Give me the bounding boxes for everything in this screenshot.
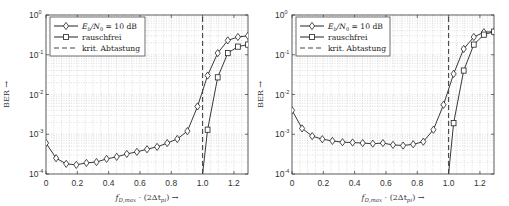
x-tick-label: 1.0 <box>443 178 455 188</box>
x-tick-label: 1.0 <box>197 178 209 188</box>
square-marker <box>246 42 251 47</box>
x-tick-label: 1.2 <box>228 178 240 188</box>
square-marker <box>482 32 487 37</box>
x-tick-label: 0.2 <box>71 178 83 188</box>
y-axis-label: BER → <box>2 81 11 108</box>
square-marker <box>492 29 497 34</box>
legend-label-krit-abtastung: krit. Abtastung <box>328 44 386 53</box>
x-tick-label: 0.8 <box>165 178 177 188</box>
y-tick-label: 10-4 <box>275 168 289 179</box>
x-tick-label: 0.6 <box>380 178 392 188</box>
y-tick-label: 100 <box>275 9 288 20</box>
x-tick-label: 0 <box>44 178 49 188</box>
y-axis-label: BER → <box>256 81 265 108</box>
y-tick-label: 10-1 <box>275 49 289 60</box>
square-marker <box>451 121 456 126</box>
right-chart-svg: 00.20.40.60.81.01.210010-110-210-310-4BE… <box>254 0 509 206</box>
x-axis-label: fD,max · (2Δtpi) → <box>360 193 424 204</box>
left-chart-svg: 00.20.40.60.81.01.210010-110-210-310-4BE… <box>0 0 255 206</box>
y-tick-label: 10-3 <box>29 128 43 139</box>
y-tick-label: 10-2 <box>275 89 289 100</box>
y-tick-label: 100 <box>29 9 42 20</box>
x-tick-label: 0.2 <box>317 178 329 188</box>
x-tick-label: 0 <box>290 178 295 188</box>
y-tick-label: 10-4 <box>29 168 43 179</box>
square-marker <box>225 51 230 56</box>
left-chart: 00.20.40.60.81.01.210010-110-210-310-4BE… <box>0 0 255 206</box>
x-tick-label: 0.4 <box>349 178 361 188</box>
square-marker <box>205 127 210 132</box>
square-icon <box>64 34 69 39</box>
square-icon <box>310 34 315 39</box>
right-chart: 00.20.40.60.81.01.210010-110-210-310-4BE… <box>254 0 509 206</box>
square-marker <box>461 68 466 73</box>
x-tick-label: 1.2 <box>474 178 486 188</box>
x-axis-label: fD,max · (2Δtpi) → <box>114 193 178 204</box>
legend: Eb/N0 = 10 dBrauschfreikrit. Abtastung <box>296 17 390 56</box>
legend-label-rauschfrei: rauschfrei <box>82 33 122 42</box>
legend-label-krit-abtastung: krit. Abtastung <box>82 44 140 53</box>
x-tick-label: 0.6 <box>134 178 146 188</box>
legend: Eb/N0 = 10 dBrauschfreikrit. Abtastung <box>50 17 145 56</box>
legend-label-rauschfrei: rauschfrei <box>328 33 368 42</box>
y-tick-label: 10-2 <box>29 89 43 100</box>
y-tick-label: 10-3 <box>275 128 289 139</box>
y-tick-label: 10-1 <box>29 49 43 60</box>
square-marker <box>236 44 241 49</box>
x-tick-label: 0.4 <box>103 178 115 188</box>
x-tick-label: 0.8 <box>411 178 423 188</box>
square-marker <box>215 75 220 80</box>
square-marker <box>471 42 476 47</box>
